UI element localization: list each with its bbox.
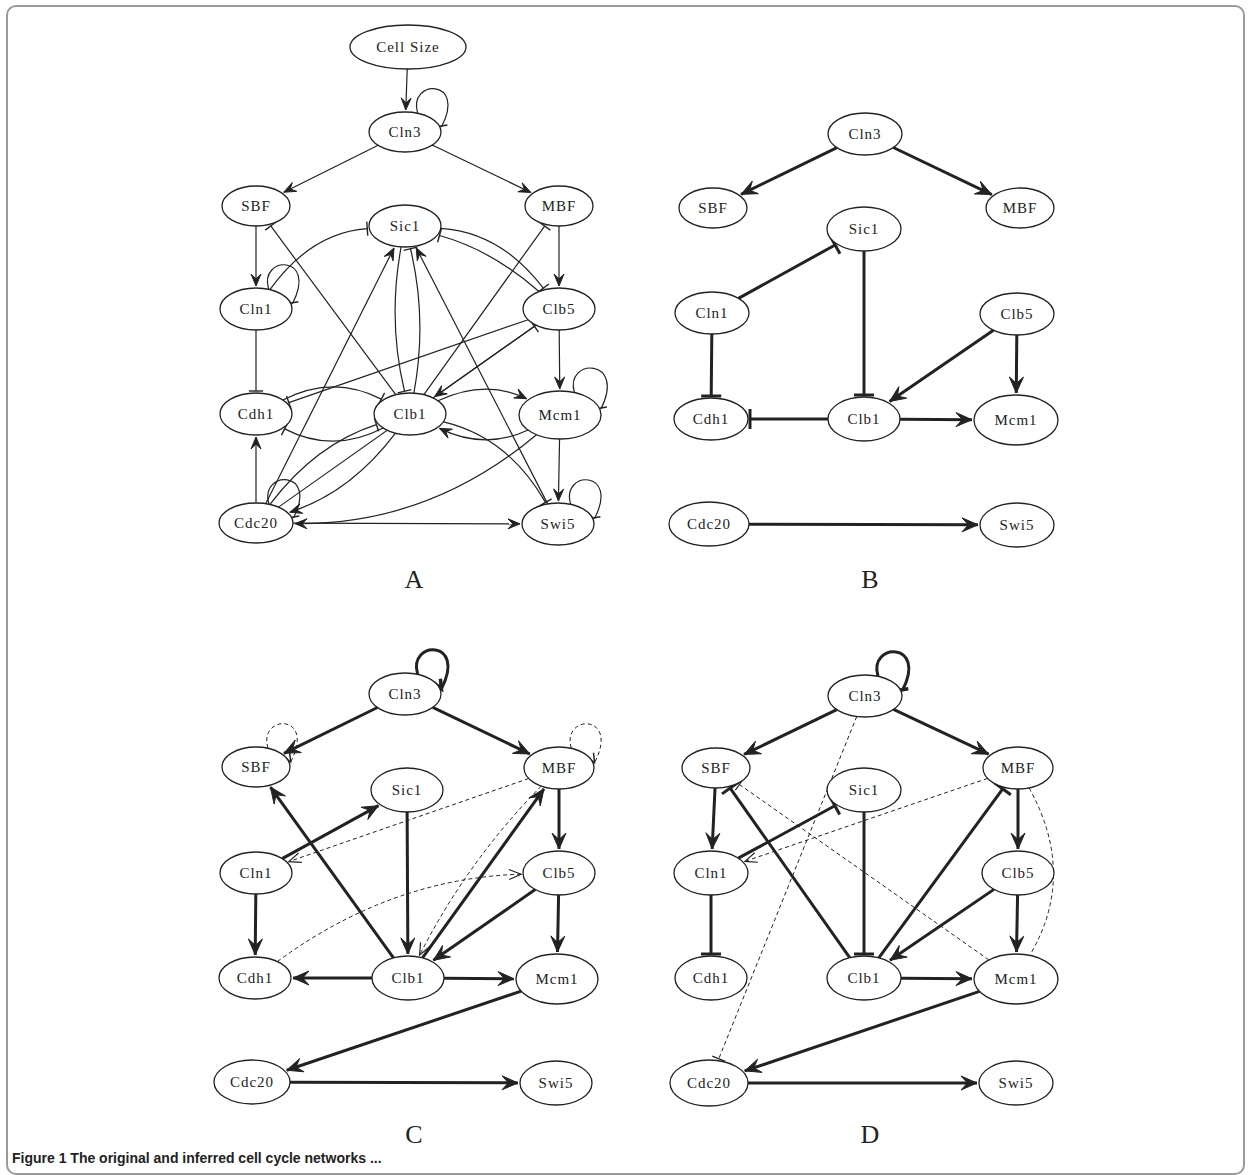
edge-sic1-clb1 (401, 812, 415, 954)
node-mcm1: Mcm1 (974, 395, 1058, 445)
edge-cln1-sic1 (282, 806, 378, 859)
edge-cln3-sbf (284, 708, 378, 754)
node-mbf: MBF (524, 747, 594, 789)
node-label: Cdc20 (687, 1075, 731, 1091)
node-mbf: MBF (986, 188, 1054, 228)
edge-cln1-sic1 (739, 236, 840, 298)
node-cdc20: Cdc20 (670, 1060, 748, 1106)
edge-clb5-sic1 (438, 229, 539, 292)
node-label: SBF (241, 198, 271, 214)
edge-cdc20-sic1 (266, 248, 394, 504)
edge-cln1-cdh1 (701, 334, 721, 396)
node-sbf: SBF (222, 186, 290, 226)
node-label: Clb5 (1000, 306, 1033, 322)
node-label: Cdc20 (230, 1074, 274, 1090)
edge-sic1-clb5 (441, 228, 549, 292)
node-clb5: Clb5 (980, 293, 1054, 335)
panel-label-c: C (405, 1120, 422, 1149)
node-sbf: SBF (682, 748, 750, 788)
edge-mbf-clb5 (1011, 789, 1025, 849)
node-label: Clb1 (391, 970, 424, 986)
node-sic1: Sic1 (371, 768, 443, 812)
node-label: MBF (542, 198, 577, 214)
edge-cln3-mbf (893, 148, 991, 195)
node-label: Sic1 (392, 782, 423, 798)
node-cdh1: Cdh1 (220, 393, 292, 435)
node-mcm1: Mcm1 (974, 954, 1058, 1004)
node-mcm1: Mcm1 (519, 391, 601, 439)
edge-cln3-sbf (741, 148, 837, 195)
edge-clb1-mcm1 (901, 972, 972, 986)
node-cln3: Cln3 (369, 673, 441, 715)
edge-cdc20-swi5 (748, 1076, 977, 1090)
edge-mcm1-cdc20 (745, 991, 980, 1072)
node-label: Cdc20 (687, 516, 731, 532)
node-label: Mcm1 (994, 971, 1037, 987)
edge-sbf-cln1 (251, 226, 261, 286)
edge-clb5-clb1 (433, 890, 535, 961)
node-clb1: Clb1 (374, 393, 446, 435)
node-label: Cdc20 (234, 515, 278, 531)
edge-clb1-cdc20 (290, 433, 396, 513)
node-cellsize: Cell Size (350, 25, 466, 69)
node-clb1: Clb1 (372, 956, 444, 1000)
node-cdh1: Cdh1 (219, 957, 291, 999)
node-cln3: Cln3 (828, 675, 902, 717)
node-label: Mcm1 (994, 412, 1037, 428)
node-sic1: Sic1 (369, 205, 441, 247)
edge-clb1-mcm1 (438, 389, 527, 401)
node-label: Clb1 (393, 406, 426, 422)
edge-clb5-mcm1 (551, 895, 565, 952)
edge-cln1-cdh1 (248, 894, 262, 955)
node-clb5: Clb5 (523, 288, 595, 330)
node-label: Clb1 (847, 411, 880, 427)
panel-label-a: A (405, 565, 424, 594)
panel-a-nodes: Cell SizeCln3SBFMBFSic1Cln1Clb5Cdh1Clb1M… (219, 25, 601, 545)
node-label: MBF (542, 760, 577, 776)
edge-cln3-mbf (893, 709, 988, 754)
edge-mbf-clb5 (554, 226, 564, 286)
nodes-layer: Cell SizeCln3SBFMBFSic1Cln1Clb5Cdh1Clb1M… (214, 25, 1058, 1106)
node-label: Cln3 (388, 686, 421, 702)
node-label: Swi5 (999, 1075, 1034, 1091)
node-cdh1: Cdh1 (674, 398, 748, 440)
node-label: Cell Size (376, 39, 440, 55)
node-cln3: Cln3 (828, 113, 902, 155)
panel-b (701, 148, 1023, 532)
node-cln1: Cln1 (220, 288, 292, 330)
panel-label-d: D (861, 1120, 880, 1149)
node-label: Mcm1 (535, 971, 578, 987)
edge-cdc20-swi5 (290, 1076, 518, 1090)
node-sic1: Sic1 (827, 768, 901, 812)
node-cdc20: Cdc20 (214, 1060, 290, 1104)
node-label: Sic1 (849, 221, 880, 237)
node-label: SBF (701, 760, 731, 776)
edge-cln3-mbf (432, 145, 531, 192)
edge-cellsize-cln3 (401, 69, 411, 110)
edge-cdh1-clb1 (283, 387, 385, 406)
node-label: Clb1 (847, 970, 880, 986)
edge-cdc20-swi5 (293, 519, 520, 529)
edge-clb1-mcm1 (900, 413, 972, 427)
node-sbf: SBF (679, 188, 747, 228)
edge-clb1-cdh1 (281, 423, 383, 442)
node-clb5: Clb5 (523, 851, 595, 895)
edge-clb5-mcm1 (555, 330, 565, 389)
node-label: Cln1 (694, 865, 727, 881)
node-label: Cln1 (239, 301, 272, 317)
edge-clb1-cdh1 (750, 409, 828, 429)
node-label: SBF (241, 759, 271, 775)
node-label: Cln1 (239, 865, 272, 881)
node-label: Swi5 (1000, 517, 1035, 533)
node-label: Cdh1 (693, 411, 730, 427)
node-label: Cln3 (388, 124, 421, 140)
edge-swi5-sic1 (416, 248, 547, 504)
node-cdc20: Cdc20 (219, 503, 293, 543)
node-label: Cdh1 (693, 970, 730, 986)
edge-cln1-cdh1 (249, 330, 263, 391)
panel-label-b: B (861, 565, 878, 594)
node-sic1: Sic1 (827, 207, 901, 251)
edge-cln3-sbf (284, 145, 378, 192)
node-cln1: Cln1 (220, 852, 292, 894)
